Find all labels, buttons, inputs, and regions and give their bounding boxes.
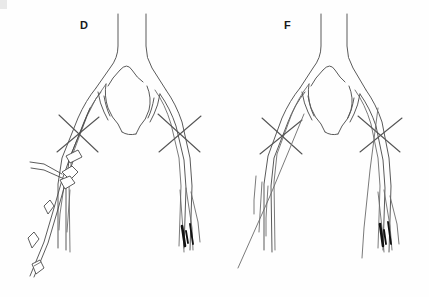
connector-bead-lower bbox=[28, 232, 39, 248]
clamp-marker-left bbox=[57, 115, 99, 152]
detached-connector bbox=[32, 260, 44, 274]
left-iliac-artery bbox=[58, 84, 106, 252]
bifurcation-divider bbox=[105, 66, 150, 135]
clamp-marker-right bbox=[158, 114, 201, 152]
left-internal-iliac-branch bbox=[98, 92, 110, 120]
figure-container: D bbox=[0, 0, 429, 297]
occlusion-marks-right bbox=[182, 224, 193, 246]
panel-d-illustration bbox=[0, 0, 214, 297]
distal-vessel-tails-left bbox=[59, 186, 70, 232]
guidewire bbox=[30, 108, 90, 277]
panel-f: F bbox=[214, 0, 428, 297]
right-iliac-artery bbox=[155, 90, 192, 250]
bifurcation-divider bbox=[308, 66, 352, 135]
panel-d: D bbox=[0, 0, 214, 297]
right-internal-iliac-branch bbox=[348, 94, 360, 122]
aorta-outline bbox=[96, 14, 166, 90]
aorta-outline bbox=[300, 14, 366, 90]
right-iliac-artery bbox=[355, 90, 391, 252]
panel-f-illustration bbox=[214, 0, 428, 297]
left-iliac-artery bbox=[264, 84, 309, 252]
sidearm-tubing bbox=[30, 162, 62, 178]
clamp-marker-left bbox=[260, 118, 302, 154]
left-oblique-line bbox=[238, 108, 378, 268]
left-internal-iliac-branch bbox=[302, 92, 314, 120]
distal-vessel-tails-right bbox=[378, 190, 399, 252]
